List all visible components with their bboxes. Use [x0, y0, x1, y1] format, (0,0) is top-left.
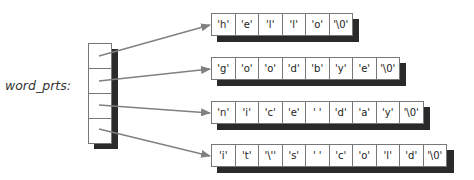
char-cell: '\0'	[330, 14, 353, 35]
char-cell: 'o'	[353, 145, 377, 166]
char-cell: 'd'	[283, 58, 307, 79]
char-cell: 'y'	[330, 58, 354, 79]
variable-label: word_prts:	[5, 78, 71, 93]
char-cell: 'e'	[353, 58, 377, 79]
char-cell: 'i'	[212, 145, 236, 166]
char-cell: 'e'	[236, 14, 260, 35]
char-cell: '\0'	[424, 145, 447, 166]
pointer-array	[88, 43, 112, 144]
char-cell: 't'	[236, 145, 260, 166]
char-cell: 's'	[283, 145, 307, 166]
string-hello: 'h' 'e' 'l' 'l' 'o' '\0'	[211, 13, 353, 36]
pointer-cell	[89, 119, 111, 143]
char-cell: 'b'	[306, 58, 330, 79]
char-cell: '\0'	[400, 102, 423, 123]
char-cell: 'c'	[259, 102, 283, 123]
char-cell: ' '	[306, 145, 330, 166]
char-cell: 'g'	[212, 58, 236, 79]
string-nice-day: 'n' 'i' 'c' 'e' ' ' 'd' 'a' 'y' '\0'	[211, 101, 424, 124]
char-cell: 'h'	[212, 14, 236, 35]
char-cell: '\0'	[377, 58, 400, 79]
char-cell: '\''	[259, 145, 283, 166]
char-cell: 'y'	[377, 102, 401, 123]
char-cell: 'i'	[236, 102, 260, 123]
char-cell: ' '	[306, 102, 330, 123]
char-cell: 'd'	[330, 102, 354, 123]
char-cell: 'l'	[377, 145, 401, 166]
char-cell: 'l'	[259, 14, 283, 35]
char-cell: 'd'	[400, 145, 424, 166]
char-cell: 'a'	[353, 102, 377, 123]
string-goodbye: 'g' 'o' 'o' 'd' 'b' 'y' 'e' '\0'	[211, 57, 400, 80]
string-its-cold: 'i' 't' '\'' 's' ' ' 'c' 'o' 'l' 'd' '\0…	[211, 144, 447, 167]
char-cell: 'e'	[283, 102, 307, 123]
char-cell: 'l'	[283, 14, 307, 35]
pointer-cell	[89, 94, 111, 119]
char-cell: 'n'	[212, 102, 236, 123]
char-cell: 'o'	[259, 58, 283, 79]
char-cell: 'o'	[236, 58, 260, 79]
pointer-cell	[89, 44, 111, 69]
char-cell: 'c'	[330, 145, 354, 166]
pointer-cell	[89, 69, 111, 94]
char-cell: 'o'	[306, 14, 330, 35]
